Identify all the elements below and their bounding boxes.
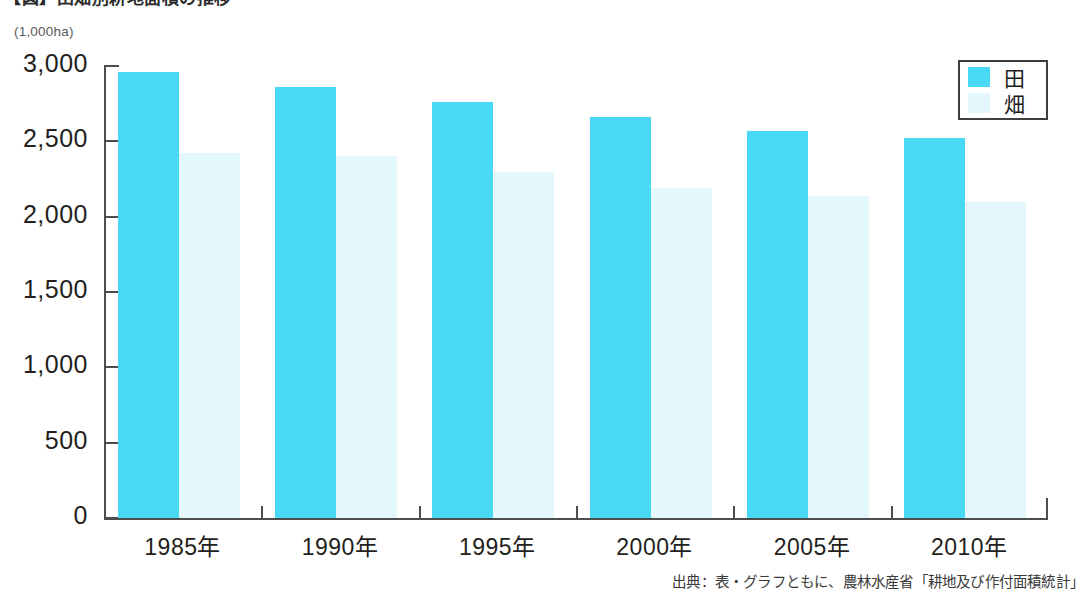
- bar-upland-2005年: [808, 196, 869, 518]
- x-tick: [104, 506, 106, 520]
- legend-item-paddy: 田: [968, 64, 1025, 90]
- bar-paddy-2005年: [747, 131, 808, 518]
- x-axis-label-2005年: 2005年: [732, 528, 892, 562]
- bar-upland-2000年: [651, 188, 712, 518]
- y-axis-label: 3,000: [0, 49, 88, 78]
- bar-chart: 05001,0001,5002,0002,5003,000 1985年1990年…: [0, 0, 1088, 600]
- chart-legend: 田 畑: [958, 60, 1048, 120]
- x-axis-label-1995年: 1995年: [417, 528, 577, 562]
- legend-label-upland: 畑: [1004, 88, 1025, 118]
- x-axis-label-2010年: 2010年: [889, 528, 1049, 562]
- bar-upland-2010年: [965, 202, 1026, 518]
- y-axis-label: 2,000: [0, 200, 88, 229]
- x-axis-label-1985年: 1985年: [103, 528, 263, 562]
- x-tick: [891, 506, 893, 520]
- x-tick: [576, 506, 578, 520]
- x-tick: [419, 506, 421, 520]
- bar-paddy-2010年: [904, 138, 965, 518]
- y-axis-label: 1,000: [0, 350, 88, 379]
- x-axis-label-2000年: 2000年: [575, 528, 735, 562]
- y-axis-label: 0: [0, 501, 88, 530]
- bar-upland-1985年: [179, 153, 240, 518]
- bar-upland-1995年: [493, 172, 554, 518]
- x-axis-end-tick: [1046, 498, 1048, 520]
- x-axis-label-1990年: 1990年: [260, 528, 420, 562]
- legend-swatch-upland-icon: [968, 93, 990, 113]
- bar-paddy-2000年: [590, 117, 651, 518]
- bar-paddy-1990年: [275, 87, 336, 518]
- y-tick-3000: [104, 65, 119, 67]
- x-tick: [733, 506, 735, 520]
- y-axis-label: 2,500: [0, 124, 88, 153]
- x-tick: [261, 506, 263, 520]
- bar-paddy-1995年: [432, 102, 493, 518]
- y-axis-label: 500: [0, 426, 88, 455]
- source-note: 出典：表・グラフともに、農林水産省「耕地及び作付面積統計」: [672, 570, 1084, 591]
- bar-upland-1990年: [336, 156, 397, 518]
- legend-swatch-paddy-icon: [968, 67, 990, 87]
- y-axis-line: [104, 66, 106, 520]
- bar-paddy-1985年: [118, 72, 179, 518]
- y-axis-label: 1,500: [0, 275, 88, 304]
- legend-item-upland: 畑: [968, 90, 1025, 116]
